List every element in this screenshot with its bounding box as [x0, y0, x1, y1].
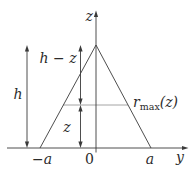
z-arrow-top-icon — [78, 105, 82, 112]
h-minus-z-arrow-top-icon — [78, 45, 82, 52]
z-axis-label: z — [85, 8, 94, 24]
base-left-label: −a — [32, 151, 52, 167]
rmax-label-arg: (z) — [160, 94, 178, 110]
total-height-label: h — [13, 86, 22, 102]
triangle-right-side — [96, 45, 151, 148]
origin-label: 0 — [85, 151, 94, 167]
base-right-label: a — [146, 151, 154, 167]
diagram-lines — [7, 16, 184, 153]
h-minus-z-arrow-bottom-icon — [78, 99, 82, 106]
height-arrow-bottom-icon — [25, 142, 29, 149]
rmax-label: rmax(z) — [133, 94, 178, 112]
cone-cross-section-diagram: z y h h − z z rmax(z) −a 0 a — [0, 0, 194, 175]
arrowheads — [25, 11, 189, 151]
z-axis-arrowhead-icon — [94, 11, 98, 18]
y-axis-label: y — [175, 149, 185, 165]
z-arrow-bottom-icon — [78, 142, 82, 149]
lower-segment-label: z — [62, 119, 71, 135]
rmax-label-subscript: max — [140, 101, 161, 112]
height-arrow-top-icon — [25, 45, 29, 52]
diagram-labels: z y h h − z z rmax(z) −a 0 a — [13, 8, 185, 167]
upper-segment-label: h − z — [39, 50, 77, 66]
